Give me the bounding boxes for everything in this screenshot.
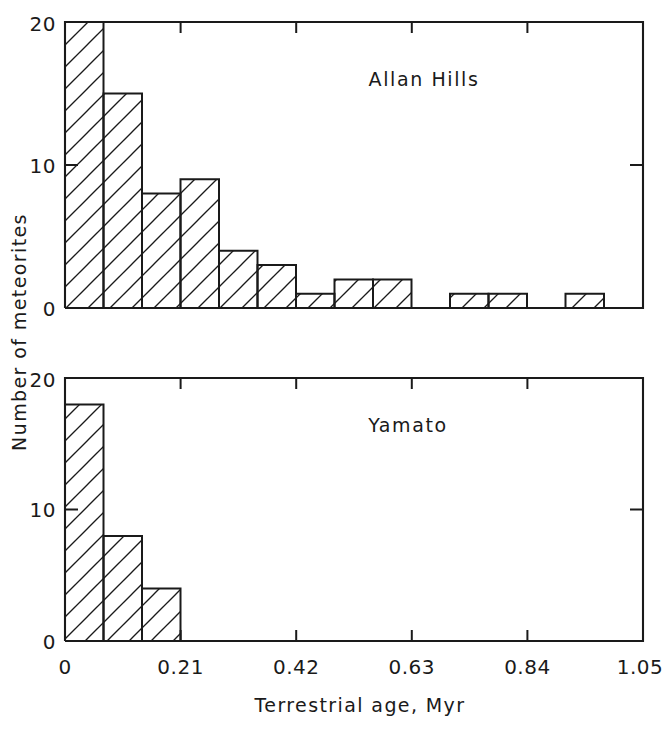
y-tick-label-top-10: 10 bbox=[30, 154, 56, 178]
x-tick-label-3: 0.63 bbox=[389, 655, 436, 679]
bar-allan-hills-3 bbox=[181, 179, 220, 308]
x-tick-label-1: 0.21 bbox=[157, 655, 204, 679]
panel-label-yamato: Yamato bbox=[367, 414, 447, 436]
figure-canvas: 20 10 0 Allan Hills bbox=[0, 0, 666, 737]
bar-allan-hills-2 bbox=[142, 194, 181, 308]
y-tick-label-top-0: 0 bbox=[43, 297, 56, 321]
x-ticks-bottom bbox=[181, 630, 528, 641]
bar-allan-hills-13 bbox=[566, 294, 605, 308]
x-ticks-bottom-top-edge bbox=[181, 378, 528, 389]
x-tick-label-0: 0 bbox=[58, 655, 71, 679]
x-tick-label-2: 0.42 bbox=[273, 655, 320, 679]
bar-allan-hills-8 bbox=[373, 279, 412, 308]
y-tick-label-top-20: 20 bbox=[30, 12, 56, 36]
x-axis-title: Terrestrial age, Myr bbox=[254, 694, 466, 716]
bar-allan-hills-6 bbox=[296, 294, 335, 308]
bar-allan-hills-7 bbox=[335, 279, 374, 308]
x-tick-label-5: 1.05 bbox=[617, 655, 664, 679]
panel-label-allan-hills: Allan Hills bbox=[369, 68, 480, 90]
bar-yamato-1 bbox=[104, 536, 143, 641]
bars-yamato bbox=[65, 405, 181, 641]
panel-allan-hills: 20 10 0 Allan Hills bbox=[30, 12, 643, 321]
x-ticks-top bbox=[181, 22, 528, 33]
x-tick-label-4: 0.84 bbox=[504, 655, 551, 679]
bar-allan-hills-4 bbox=[219, 251, 258, 308]
bar-allan-hills-1 bbox=[104, 94, 143, 309]
bars-allan-hills bbox=[65, 22, 604, 308]
panel-yamato: 20 10 0 0 0.21 0.42 0.63 0.84 1.05 Yamat… bbox=[30, 368, 664, 679]
bar-allan-hills-10 bbox=[450, 294, 489, 308]
bar-allan-hills-5 bbox=[258, 265, 297, 308]
bar-yamato-0 bbox=[65, 405, 104, 641]
y-tick-label-bottom-10: 10 bbox=[30, 498, 56, 522]
bar-allan-hills-11 bbox=[489, 294, 528, 308]
bar-yamato-2 bbox=[142, 588, 181, 641]
histogram-figure: 20 10 0 Allan Hills bbox=[0, 0, 666, 737]
y-tick-label-bottom-20: 20 bbox=[30, 368, 56, 392]
y-tick-label-bottom-0: 0 bbox=[43, 630, 56, 654]
y-axis-title: Number of meteorites bbox=[8, 213, 30, 451]
